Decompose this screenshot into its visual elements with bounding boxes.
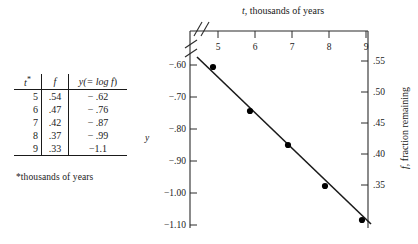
left-axis-ticks: [190, 65, 197, 225]
top-axis-title: t, thousands of years: [242, 5, 324, 16]
right-axis-title-rest: , fraction remaining: [399, 87, 410, 166]
left-tick-label-6: −1.10: [164, 220, 186, 230]
top-tick-label-5: 5: [216, 42, 221, 52]
top-tick-label-8: 8: [327, 42, 332, 52]
left-tick-label-4: −.90: [169, 156, 186, 166]
left-tick-label-2: −.70: [169, 92, 186, 102]
right-tick-label-4: .40: [373, 149, 385, 159]
right-tick-label-3: .45: [373, 118, 385, 128]
data-point: [247, 108, 253, 114]
data-point: [359, 217, 365, 223]
right-tick-label-5: .35: [373, 180, 385, 190]
left-tick-label-5: −1.00: [164, 188, 186, 198]
left-tick-label-3: −.80: [169, 124, 186, 134]
top-axis-title-rest: , thousands of years: [245, 5, 325, 16]
right-axis-ticks: [361, 61, 368, 185]
data-point: [210, 64, 216, 70]
figure-root: t* f y(= log f) 5 .54 − .62 6 .47 − .76 …: [0, 0, 418, 244]
data-point: [285, 142, 291, 148]
scatter-plot: t, thousands of years 5 6 7: [0, 0, 418, 244]
axis-break-marks: [185, 22, 209, 57]
right-tick-label-1: .55: [373, 56, 385, 66]
top-axis-ticks: [218, 31, 366, 38]
top-tick-label-7: 7: [290, 42, 295, 52]
left-tick-label-1: −.60: [169, 60, 186, 70]
top-tick-label-6: 6: [253, 42, 258, 52]
right-tick-label-2: .50: [373, 87, 385, 97]
data-point: [322, 183, 328, 189]
left-axis-label: y: [144, 133, 150, 143]
right-axis-title: f, fraction remaining: [399, 87, 410, 169]
top-tick-label-9: 9: [364, 42, 369, 52]
fit-line: [197, 57, 371, 224]
